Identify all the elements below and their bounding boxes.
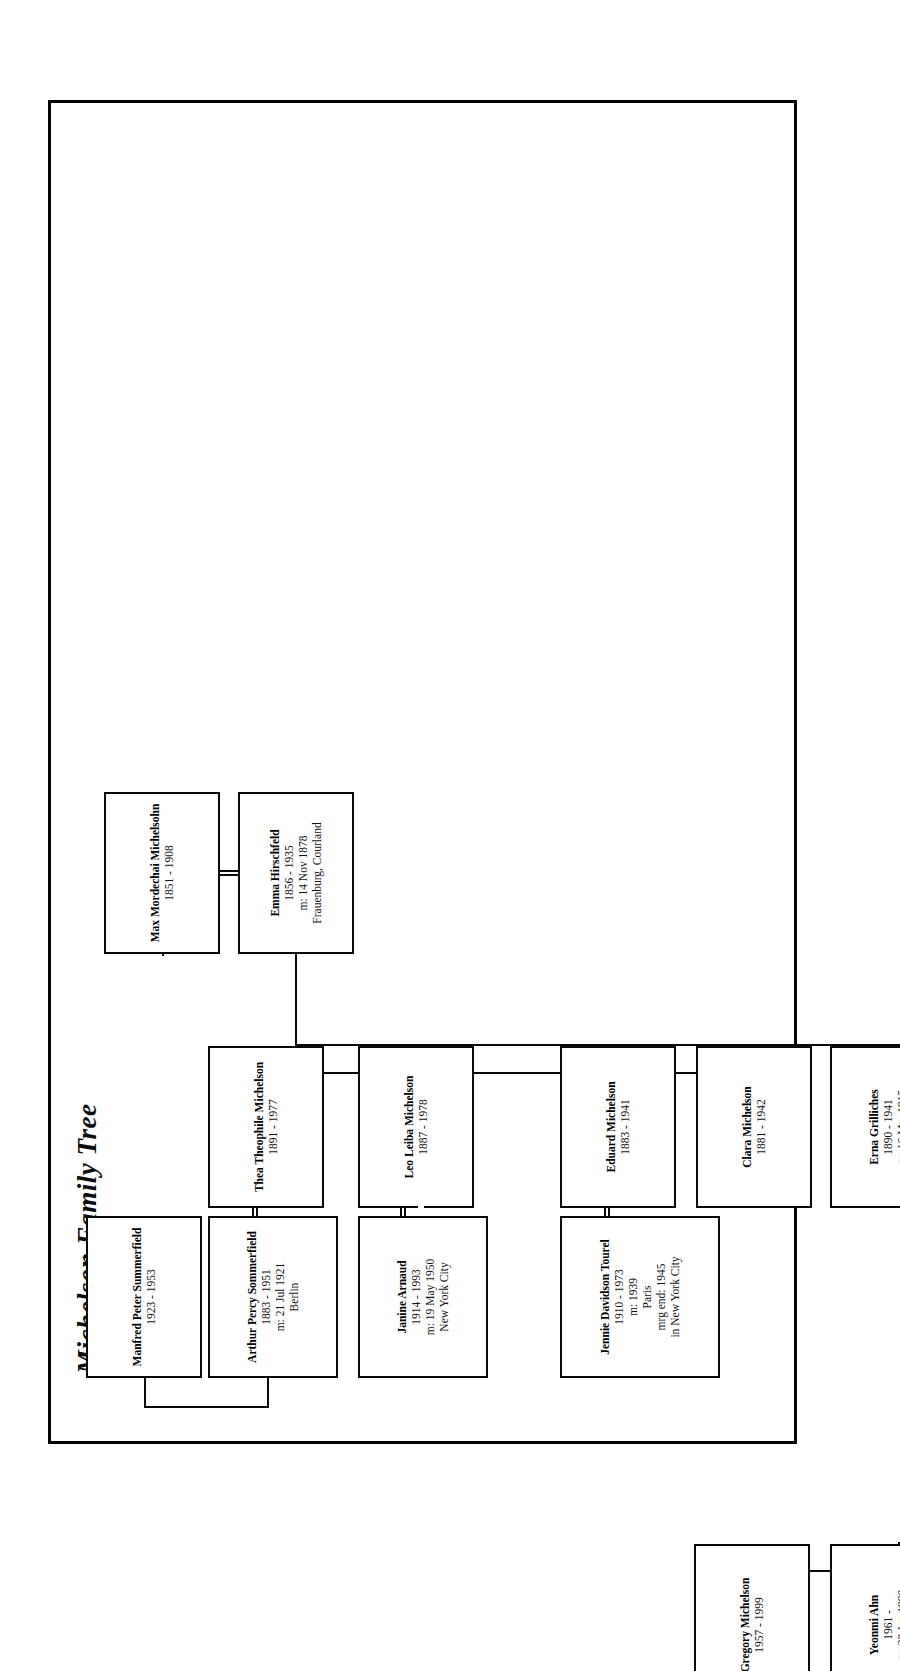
person-marriage-date: m: 19 May 1950 (423, 1259, 437, 1335)
person-dates: 1957 - 1999 (752, 1597, 766, 1653)
person-name: Manfred Peter Summerfield (130, 1228, 144, 1367)
person-marriage-place: Paris (640, 1286, 654, 1309)
person-name: Clara Michelson (740, 1086, 754, 1167)
person-marriage-date: m: 16 Mar 1915 (895, 1090, 900, 1164)
person-name: Arthur Percy Sommerfield (245, 1231, 259, 1363)
person-marriage-date: m: 28 Jan 1990 (895, 1590, 900, 1661)
person-marriage-place: Frauenburg, Courland (310, 822, 324, 923)
person-box-thea-theophile-michelson[interactable]: Thea Theophile Michelson 1891 - 1977 (208, 1046, 324, 1208)
marriage-connector-leo-jennie (604, 1208, 610, 1216)
connector-couple-to-children (295, 954, 297, 1046)
person-name: Janine Arnaud (395, 1260, 409, 1333)
person-marriage-place: New York City (437, 1262, 451, 1331)
person-name: Leo Leiba Michelson (402, 1076, 416, 1179)
person-box-eduard-michelson[interactable]: Eduard Michelson 1883 - 1941 (560, 1046, 676, 1208)
family-tree-chart: Michelson Family Tree Max Mordechai Mich… (48, 100, 797, 1444)
person-dates: 1914 - 1993 (409, 1269, 423, 1325)
person-dates: 1881 - 1942 (754, 1099, 768, 1155)
person-dates: 1851 - 1908 (162, 845, 176, 901)
person-box-erna-grilliches[interactable]: Erna Grilliches 1890 - 1941 m: 16 Mar 19… (830, 1046, 900, 1208)
person-dates: 1856 - 1935 (282, 845, 296, 901)
person-name: Jennie Davidson Tourel (598, 1239, 612, 1354)
person-box-emma-hirschfeld[interactable]: Emma Hirschfeld 1856 - 1935 m: 14 Nov 18… (238, 792, 354, 954)
person-name: Eduard Michelson (604, 1081, 618, 1172)
person-box-clara-michelson[interactable]: Clara Michelson 1881 - 1942 (696, 1046, 812, 1208)
person-dates: 1883 - 1941 (618, 1099, 632, 1155)
marriage-connector-max-emma (220, 870, 238, 876)
person-name: Emma Hirschfeld (268, 829, 282, 916)
page-canvas: Michelson Family Tree Max Mordechai Mich… (0, 0, 900, 1671)
person-name: Erna Grilliches (867, 1089, 881, 1165)
person-marriage-date: m: 14 Nov 1878 (296, 835, 310, 910)
person-box-arthur-percy-sommerfield[interactable]: Arthur Percy Sommerfield 1883 - 1951 m: … (208, 1216, 338, 1378)
person-box-manfred-peter-summerfield[interactable]: Manfred Peter Summerfield 1923 - 1953 (86, 1216, 202, 1378)
person-name: Thea Theophile Michelson (252, 1062, 266, 1192)
sibling-branch-riser (265, 1072, 755, 1074)
marriage-connector-thea-arthur (252, 1208, 258, 1216)
connector-to-manfred (144, 1378, 146, 1408)
person-marriage-place: Berlin (287, 1283, 301, 1312)
person-dates: 1961 - (881, 1610, 895, 1640)
person-name: Yeonmi Ahn (867, 1595, 881, 1655)
person-box-janine-arnaud[interactable]: Janine Arnaud 1914 - 1993 m: 19 May 1950… (358, 1216, 488, 1378)
person-dates: 1891 - 1977 (266, 1099, 280, 1155)
person-dates: 1890 - 1941 (881, 1099, 895, 1155)
person-dates: 1910 - 1973 (612, 1269, 626, 1325)
person-name: Gregory Michelson (738, 1578, 752, 1671)
person-marriage-end-place: in New York City (668, 1256, 682, 1337)
person-marriage-date: m: 21 Jul 1921 (273, 1263, 287, 1332)
person-name: Max Mordechai Michelsohn (148, 804, 162, 943)
person-dates: 1887 - 1978 (416, 1099, 430, 1155)
person-marriage-date: m: 1939 (626, 1278, 640, 1316)
person-box-leo-leiba-michelson[interactable]: Leo Leiba Michelson 1887 - 1978 (358, 1046, 474, 1208)
person-box-yeonmi-ahn[interactable]: Yeonmi Ahn 1961 - m: 28 Jan 1990 New Hav… (830, 1544, 900, 1671)
person-marriage-end: mrg end: 1945 (654, 1264, 668, 1331)
person-box-max-mordechai-michelsohn[interactable]: Max Mordechai Michelsohn 1851 - 1908 (104, 792, 220, 954)
person-box-gregory-michelson[interactable]: Gregory Michelson 1957 - 1999 (694, 1544, 810, 1671)
person-box-jennie-davidson-tourel[interactable]: Jennie Davidson Tourel 1910 - 1973 m: 19… (560, 1216, 720, 1378)
person-dates: 1923 - 1953 (144, 1269, 158, 1325)
person-dates: 1883 - 1951 (259, 1269, 273, 1325)
marriage-connector-leo-janine (400, 1208, 406, 1216)
